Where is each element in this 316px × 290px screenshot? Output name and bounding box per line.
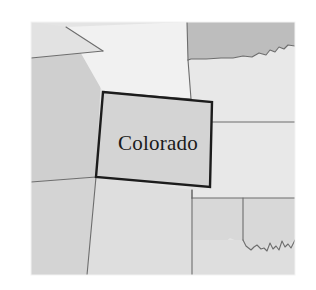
region-arizona: [31, 177, 96, 275]
region-new-mexico: [87, 177, 192, 275]
colorado-locator-map: Colorado: [0, 0, 316, 290]
map-body: Colorado: [31, 22, 295, 275]
colorado-label: Colorado: [118, 131, 198, 155]
region-texas-panhandle: [192, 240, 295, 275]
region-oklahoma-panhandle-body: [192, 198, 243, 247]
map-canvas: Colorado: [0, 0, 316, 290]
